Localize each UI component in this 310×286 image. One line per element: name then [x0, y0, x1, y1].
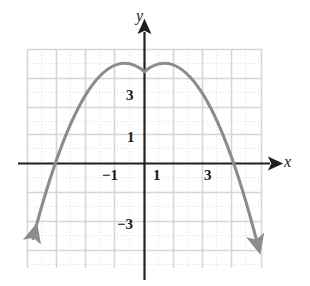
- x-axis-name: x: [284, 154, 291, 170]
- x-tick-label-neg1: −1: [102, 168, 118, 183]
- graph-figure: −1 1 3 3 1 −3 x y: [0, 0, 310, 286]
- y-tick-label-3: 3: [126, 88, 134, 103]
- y-tick-label-neg3: −3: [117, 217, 133, 232]
- x-tick-label-3: 3: [204, 168, 212, 183]
- coordinate-plane: [0, 0, 310, 286]
- y-axis-name: y: [136, 8, 143, 24]
- y-tick-label-1: 1: [127, 130, 135, 145]
- x-tick-label-1: 1: [153, 168, 161, 183]
